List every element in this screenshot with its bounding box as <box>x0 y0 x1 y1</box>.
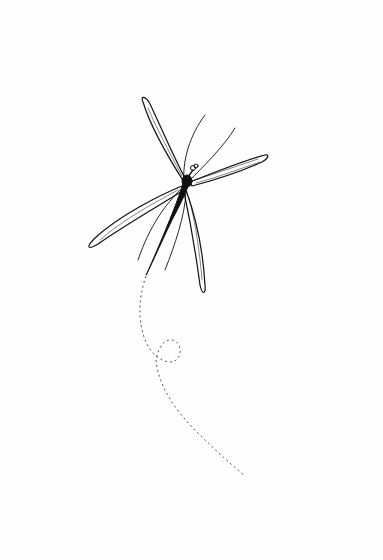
upper-right-wing <box>190 155 268 186</box>
upper-left-wing <box>142 97 186 182</box>
illustration-canvas: Ink line drawing of a dragonfly in fligh… <box>0 0 383 560</box>
lower-right-wing <box>184 190 205 293</box>
dragonfly-drawing <box>0 0 383 560</box>
lower-left-wing <box>89 186 184 247</box>
flight-path <box>140 276 245 476</box>
